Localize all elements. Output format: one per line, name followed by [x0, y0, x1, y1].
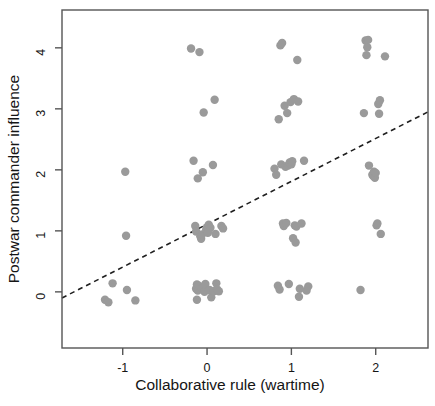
data-point [285, 280, 293, 288]
data-point [377, 230, 385, 238]
x-axis-label: Collaborative rule (wartime) [135, 376, 325, 393]
data-point [376, 96, 384, 104]
data-point [363, 43, 371, 51]
data-point [275, 115, 283, 123]
data-point [108, 279, 116, 287]
data-point [297, 219, 305, 227]
plot-background [0, 0, 435, 406]
data-point [372, 169, 380, 177]
data-point [210, 95, 218, 103]
data-point [195, 48, 203, 56]
data-point [293, 56, 301, 64]
data-point [362, 51, 370, 59]
data-point [278, 39, 286, 47]
data-point [275, 285, 283, 293]
data-point [283, 109, 291, 117]
data-point [199, 168, 207, 176]
data-point [356, 286, 364, 294]
data-point [360, 109, 368, 117]
y-tick-label: 2 [34, 171, 48, 178]
y-axis-label: Postwar commander influence [5, 75, 22, 284]
y-tick-label: 0 [34, 293, 48, 300]
plot-canvas: -1012 01234 Collaborative rule (wartime)… [0, 0, 435, 406]
data-point [211, 230, 219, 238]
x-tick-label: -1 [117, 361, 128, 375]
data-point [187, 44, 195, 52]
data-point [131, 296, 139, 304]
x-tick-label: 2 [372, 361, 379, 375]
y-tick-label: 1 [34, 232, 48, 239]
data-point [291, 238, 299, 246]
data-point [209, 161, 217, 169]
y-tick-label: 3 [34, 110, 48, 117]
data-point [300, 157, 308, 165]
x-tick-label: 1 [288, 361, 295, 375]
data-point [295, 293, 303, 301]
data-point [123, 286, 131, 294]
data-point [193, 296, 201, 304]
data-point [373, 219, 381, 227]
data-point [304, 282, 312, 290]
data-point [121, 167, 129, 175]
data-point [219, 224, 227, 232]
data-point [381, 52, 389, 60]
x-tick-label: 0 [204, 361, 211, 375]
data-point [282, 219, 290, 227]
data-point [288, 157, 296, 165]
data-point [104, 298, 112, 306]
data-point [294, 97, 302, 105]
data-point [215, 287, 223, 295]
data-point [364, 36, 372, 44]
scatter-plot-figure: -1012 01234 Collaborative rule (wartime)… [0, 0, 435, 406]
data-point [122, 232, 130, 240]
y-tick-label: 4 [34, 49, 48, 56]
data-point [189, 157, 197, 165]
data-point [272, 171, 280, 179]
data-point [199, 108, 207, 116]
data-point [375, 110, 383, 118]
